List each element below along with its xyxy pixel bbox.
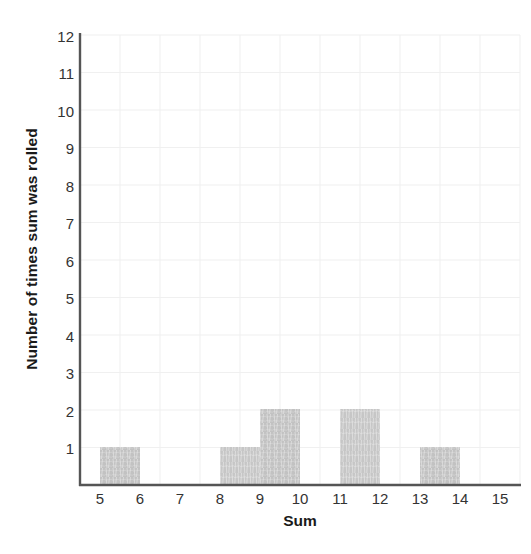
bar-14 [420, 447, 460, 485]
bar-12 [340, 409, 380, 485]
chart-plot-area [0, 0, 531, 554]
bar-10 [260, 409, 300, 485]
chart-container: Number of times sum was rolled Sum 12 11… [0, 0, 531, 554]
bar-9 [220, 447, 260, 485]
bar-6 [100, 447, 140, 485]
grid-lines-horizontal [80, 35, 520, 448]
